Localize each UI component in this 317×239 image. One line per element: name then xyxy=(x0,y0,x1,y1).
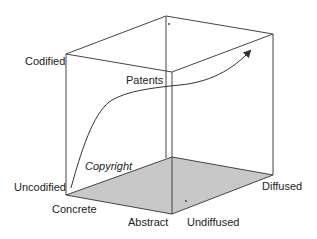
label-copyright: Copyright xyxy=(85,161,132,172)
top-dot xyxy=(168,23,170,25)
label-codified: Codified xyxy=(25,56,65,67)
label-concrete: Concrete xyxy=(52,204,97,215)
label-patents: Patents xyxy=(126,75,163,86)
floor-dot xyxy=(185,200,187,202)
cube-diagram xyxy=(0,0,317,239)
label-uncodified: Uncodified xyxy=(14,182,66,193)
label-diffused: Diffused xyxy=(262,181,302,192)
label-undiffused: Undiffused xyxy=(187,217,239,228)
label-abstract: Abstract xyxy=(128,217,168,228)
